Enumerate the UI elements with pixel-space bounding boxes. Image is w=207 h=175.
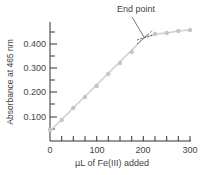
x-tick-label: 0 xyxy=(47,145,52,155)
y-axis-label: Absorbance at 465 nm xyxy=(5,39,15,125)
y-tick-label: 0.400 xyxy=(23,39,46,49)
chart: 0.100 0.200 0.300 0.400 0 100 200 300 µL… xyxy=(0,0,207,175)
y-tick-label: 0.200 xyxy=(23,87,46,97)
annotation-pointer xyxy=(132,17,144,37)
x-axis-label: µL of Fe(III) added xyxy=(75,158,149,168)
linear-fit-line xyxy=(50,34,148,131)
data-points xyxy=(48,28,192,132)
x-tick-label: 100 xyxy=(89,145,104,155)
x-ticks xyxy=(62,136,190,141)
x-tick-label: 200 xyxy=(135,145,150,155)
y-ticks xyxy=(50,32,57,129)
y-tick-label: 0.100 xyxy=(23,112,46,122)
end-point-annotation: End point xyxy=(117,4,156,14)
x-tick-label: 300 xyxy=(182,145,197,155)
y-tick-label: 0.300 xyxy=(23,63,46,73)
